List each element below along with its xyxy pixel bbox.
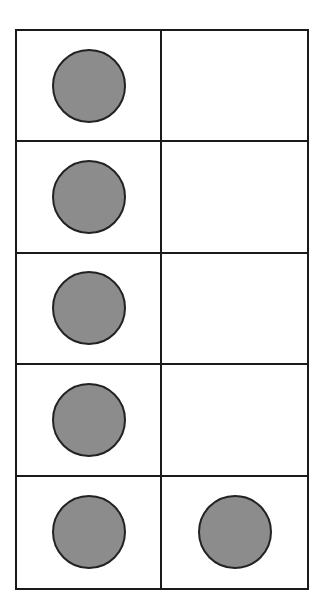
frame-cell [162,477,307,588]
frame-cell [17,254,162,365]
frame-cell [17,31,162,142]
counter-circle-icon [52,495,126,569]
frame-cell [17,477,162,588]
counter-circle-icon [52,49,126,123]
frame-cell [17,142,162,253]
frame-cell [162,31,307,142]
counter-circle-icon [52,160,126,234]
counter-circle-icon [52,383,126,457]
counter-circle-icon [52,271,126,345]
frame-cell [162,254,307,365]
frame-cell [17,365,162,476]
frame-cell [162,365,307,476]
ten-frame [15,29,309,590]
counter-circle-icon [198,495,272,569]
frame-cell [162,142,307,253]
